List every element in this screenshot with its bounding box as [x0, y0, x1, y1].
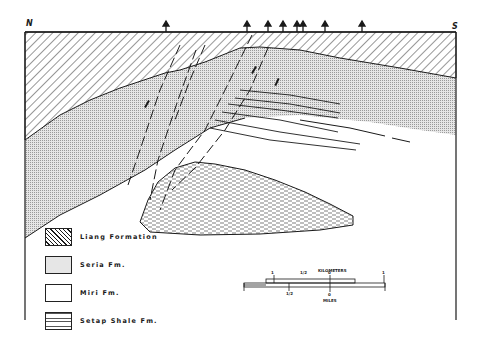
scale-bar-graphic	[244, 275, 385, 292]
legend-item-miri: Miri Fm.	[45, 283, 120, 303]
legend-item-seria: Seria Fm.	[45, 255, 126, 275]
legend-label: Seria Fm.	[80, 261, 126, 269]
liang-swatch	[45, 228, 72, 246]
legend-label: Setap Shale Fm.	[80, 317, 158, 325]
scale-km-label: KILOMETERS	[318, 268, 347, 273]
scale-tick: 1/2	[286, 291, 293, 296]
well-markers	[163, 21, 365, 32]
scale-tick: 0	[328, 270, 331, 275]
legend-item-setap: Setap Shale Fm.	[45, 311, 158, 331]
scale-tick: 1	[382, 270, 385, 275]
legend-item-liang: Liang Formation	[45, 227, 158, 247]
legend-label: Liang Formation	[80, 233, 158, 241]
scale-miles-label: MILES	[323, 298, 337, 303]
legend-label: Miri Fm.	[80, 289, 120, 297]
cross-section-figure: N S Liang Formation Seria Fm. Miri Fm. S…	[0, 0, 479, 344]
scale-tick: 1/2	[300, 270, 307, 275]
south-label: S	[452, 22, 458, 31]
north-label: N	[26, 19, 33, 28]
miri-swatch	[45, 284, 72, 302]
scale-tick: 0	[328, 292, 331, 297]
setap-swatch	[45, 312, 72, 330]
scale-tick: 1	[271, 270, 274, 275]
seria-swatch	[45, 256, 72, 274]
